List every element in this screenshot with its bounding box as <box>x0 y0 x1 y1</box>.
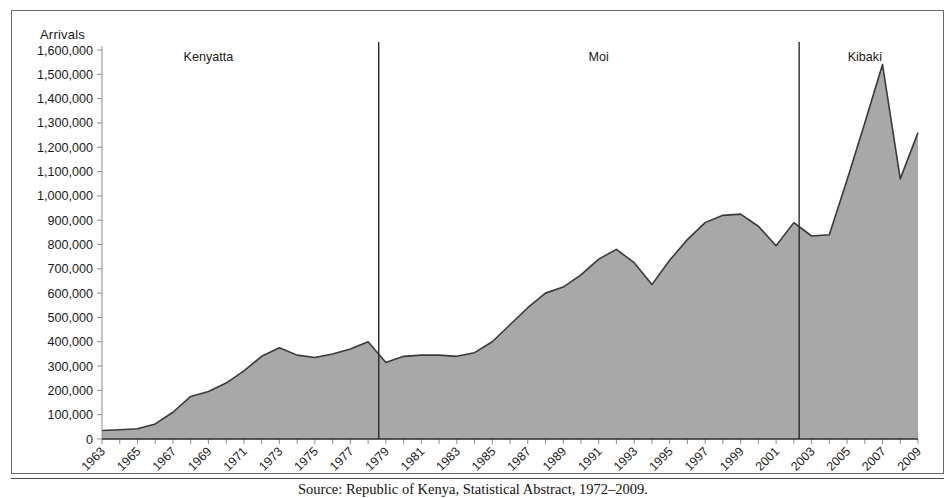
y-tick-label: 900,000 <box>47 214 93 228</box>
x-tick-label: 1981 <box>398 444 427 473</box>
x-tick-label: 1963 <box>79 444 108 473</box>
caption-divider <box>11 478 944 479</box>
arrivals-area-series <box>102 65 918 439</box>
x-tick-label: 1985 <box>469 444 498 473</box>
y-tick-label: 200,000 <box>47 384 93 398</box>
x-tick-label: 2009 <box>895 444 924 473</box>
x-tick-label: 1995 <box>646 444 675 473</box>
era-label: Kibaki <box>848 50 882 64</box>
y-tick-label: 1,000,000 <box>37 189 93 203</box>
area-fill <box>102 65 918 439</box>
x-tick-label: 1973 <box>256 444 285 473</box>
y-axis-ticks: 1,600,0001,500,0001,400,0001,300,0001,20… <box>37 44 102 447</box>
x-tick-label: 1969 <box>185 444 214 473</box>
x-axis-tick-labels: 1963196519671969197119731975197719791981… <box>79 444 924 473</box>
era-label: Kenyatta <box>184 50 234 64</box>
y-tick-label: 300,000 <box>47 360 93 374</box>
x-tick-label: 2007 <box>859 444 888 473</box>
era-label: Moi <box>589 50 609 64</box>
x-tick-label: 1993 <box>611 444 640 473</box>
y-tick-label: 400,000 <box>47 335 93 349</box>
y-tick-label: 1,400,000 <box>37 92 93 106</box>
caption-text: Source: Republic of Kenya, Statistical A… <box>0 481 946 498</box>
y-tick-label: 1,600,000 <box>37 44 93 58</box>
era-annotation-labels: KenyattaMoiKibaki <box>184 50 882 64</box>
y-tick-label: 1,300,000 <box>37 116 93 130</box>
x-tick-label: 1997 <box>682 444 711 473</box>
figure-caption: Source: Republic of Kenya, Statistical A… <box>0 478 946 498</box>
x-tick-label: 1977 <box>327 444 356 473</box>
x-tick-label: 1967 <box>150 444 179 473</box>
y-tick-label: 700,000 <box>47 262 93 276</box>
x-tick-label: 1991 <box>575 444 604 473</box>
x-tick-label: 1987 <box>504 444 533 473</box>
y-tick-label: 600,000 <box>47 287 93 301</box>
x-tick-label: 2005 <box>824 444 853 473</box>
x-tick-label: 1975 <box>292 444 321 473</box>
y-tick-label: 800,000 <box>47 238 93 252</box>
y-tick-label: 0 <box>86 433 93 447</box>
chart-figure: Arrivals 1,600,0001,500,0001,400,0001,30… <box>11 10 944 474</box>
y-tick-label: 500,000 <box>47 311 93 325</box>
x-tick-label: 1965 <box>114 444 143 473</box>
x-tick-label: 1989 <box>540 444 569 473</box>
arrivals-area-chart: 1,600,0001,500,0001,400,0001,300,0001,20… <box>12 11 945 475</box>
x-axis-ticks <box>102 439 918 444</box>
y-tick-label: 100,000 <box>47 408 93 422</box>
x-tick-label: 1999 <box>717 444 746 473</box>
x-tick-label: 1983 <box>434 444 463 473</box>
x-tick-label: 1971 <box>221 444 250 473</box>
y-tick-label: 1,500,000 <box>37 68 93 82</box>
x-tick-label: 2001 <box>753 444 782 473</box>
y-tick-label: 1,200,000 <box>37 141 93 155</box>
y-tick-label: 1,100,000 <box>37 165 93 179</box>
x-tick-label: 1979 <box>363 444 392 473</box>
x-tick-label: 2003 <box>788 444 817 473</box>
